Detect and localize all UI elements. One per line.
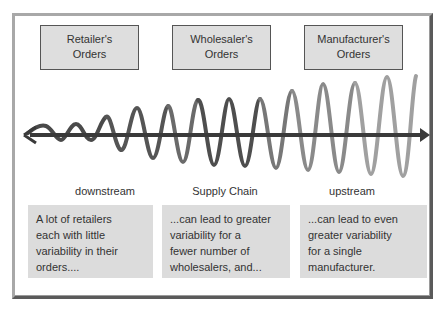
label-upstream: upstream bbox=[312, 185, 392, 197]
arrowhead-right-icon bbox=[420, 128, 430, 142]
desc-line: greater variability bbox=[308, 227, 419, 243]
wave-segment-wholesaler bbox=[198, 99, 260, 166]
label-downstream: downstream bbox=[60, 185, 150, 197]
wave-segment-mid-1 bbox=[168, 100, 198, 162]
description-manufacturer: ...can lead to even greater variability … bbox=[300, 205, 427, 278]
description-wholesalers: ...can lead to greater variability for a… bbox=[162, 205, 290, 278]
description-retailers: A lot of retailers each with little vari… bbox=[28, 205, 153, 278]
desc-line: ...can lead to even bbox=[308, 211, 419, 227]
wave-segment-growing bbox=[106, 106, 168, 158]
desc-line: fewer number of bbox=[170, 243, 282, 259]
desc-line: ...can lead to greater bbox=[170, 211, 282, 227]
desc-line: for a single bbox=[308, 243, 419, 259]
desc-line: each with little bbox=[36, 227, 145, 243]
wave-segment-manufacturer bbox=[355, 76, 416, 176]
desc-line: variability for a bbox=[170, 227, 282, 243]
desc-line: manufacturer. bbox=[308, 259, 419, 275]
desc-line: variability in their bbox=[36, 243, 145, 259]
wave-segment-mid-2 bbox=[260, 91, 292, 168]
desc-line: wholesalers, and... bbox=[170, 259, 282, 275]
desc-line: A lot of retailers bbox=[36, 211, 145, 227]
desc-line: orders.... bbox=[36, 259, 145, 275]
wave-segment-upstream-1 bbox=[292, 83, 355, 172]
label-supply-chain: Supply Chain bbox=[175, 185, 275, 197]
